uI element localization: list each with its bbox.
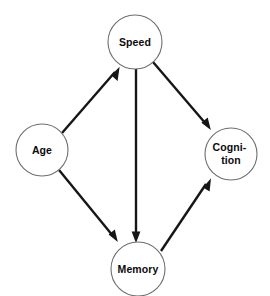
node-speed-label: Speed [119,36,151,48]
node-cognition-label-line-0: Cogni- [213,141,247,153]
edge-speed-to-cognition [153,62,211,130]
edge-speed-to-memory [132,69,141,243]
node-age-label-line-0: Age [32,144,52,156]
node-memory-label: Memory [118,263,159,275]
path-diagram-svg: Speed Age Cogni- tion Memory [0,0,270,296]
edge-speed-to-memory-arrowhead [132,232,141,244]
node-memory-label-line-0: Memory [118,263,159,275]
node-cognition-label-line-1: tion [221,154,241,166]
edge-age-to-memory-line [59,170,113,236]
edge-age-to-speed [62,67,120,133]
node-memory[interactable]: Memory [111,242,165,296]
edge-memory-to-cognition-line [161,184,206,251]
node-speed-label-line-0: Speed [119,36,151,48]
node-speed[interactable]: Speed [108,15,162,69]
edge-memory-to-cognition [161,178,211,251]
path-diagram-canvas: Speed Age Cogni- tion Memory [0,0,270,296]
edge-speed-to-cognition-line [153,62,206,124]
edge-age-to-memory [59,170,118,242]
node-cognition[interactable]: Cogni- tion [205,128,257,180]
edge-age-to-speed-line [62,72,115,133]
node-age-label: Age [32,144,52,156]
node-age[interactable]: Age [16,124,68,176]
